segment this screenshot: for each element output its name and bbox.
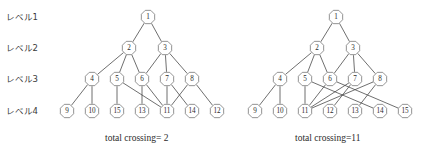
graph-edge [146, 85, 162, 106]
graph-node[interactable]: 12 [323, 104, 336, 117]
graph-node[interactable]: 13 [135, 104, 148, 117]
node-label: 9 [253, 107, 257, 115]
node-label: 13 [351, 107, 359, 115]
graph-edge [146, 54, 160, 73]
node-label: 3 [163, 44, 167, 52]
graph-node[interactable]: 10 [273, 104, 286, 117]
graph-edge [259, 85, 275, 106]
node-label: 15 [113, 107, 121, 115]
graph-edge [132, 55, 139, 73]
graph-edge [120, 55, 127, 73]
graph-node[interactable]: 4 [85, 72, 98, 85]
graph-node[interactable]: 11 [160, 104, 173, 117]
graph-node[interactable]: 8 [373, 72, 386, 85]
graph-node[interactable]: 7 [160, 72, 173, 85]
graph-node[interactable]: 9 [248, 104, 261, 117]
graph-node[interactable]: 12 [210, 104, 223, 117]
left-graph-caption: total crossing= 2 [105, 133, 168, 143]
node-label: 6 [328, 75, 332, 83]
node-label: 14 [188, 107, 196, 115]
graph-node[interactable]: 15 [110, 104, 123, 117]
node-label: 8 [378, 75, 382, 83]
level-label-3: レベル3 [6, 72, 38, 84]
node-label: 13 [138, 107, 146, 115]
figure-canvas: レベル1レベル2レベル3レベル4 123456789101513111412to… [0, 0, 437, 154]
node-label: 6 [140, 75, 144, 83]
graph-node[interactable]: 3 [346, 41, 359, 54]
node-label: 10 [88, 107, 96, 115]
graph-edge [98, 53, 124, 75]
graph-node[interactable]: 9 [60, 104, 73, 117]
graph-edge [321, 23, 332, 42]
node-label: 1 [334, 13, 338, 21]
graph-edge [196, 85, 212, 106]
node-label: 12 [213, 107, 221, 115]
graph-edge [353, 55, 354, 72]
node-label: 15 [401, 107, 409, 115]
node-label: 3 [351, 44, 355, 52]
graph-edge [133, 23, 144, 42]
edge-layer [71, 23, 212, 107]
level-label-column: レベル1レベル2レベル3レベル4 [0, 0, 60, 130]
graph-edge [334, 54, 348, 73]
graph-edge [320, 55, 327, 73]
graph-node[interactable]: 8 [185, 72, 198, 85]
graph-node[interactable]: 13 [348, 104, 361, 117]
graph-node[interactable]: 2 [122, 41, 135, 54]
graph-node[interactable]: 10 [85, 104, 98, 117]
graph-edge [358, 53, 376, 73]
node-label: 12 [326, 107, 334, 115]
node-label: 7 [165, 75, 169, 83]
graph-edge [359, 85, 375, 106]
node-label: 4 [90, 75, 94, 83]
level-label-2: レベル2 [6, 41, 38, 53]
node-label: 4 [278, 75, 282, 83]
node-label: 2 [315, 44, 319, 52]
graph-node[interactable]: 7 [348, 72, 361, 85]
graph-node[interactable]: 2 [310, 41, 323, 54]
graph-node[interactable]: 14 [373, 104, 386, 117]
graph-node[interactable]: 4 [273, 72, 286, 85]
graph-edge [286, 53, 312, 75]
node-label: 8 [190, 75, 194, 83]
graph-node[interactable]: 5 [110, 72, 123, 85]
node-label: 2 [127, 44, 131, 52]
graph-node[interactable]: 11 [298, 104, 311, 117]
node-label: 5 [115, 75, 119, 83]
edge-layer [259, 23, 398, 108]
graph-edge [309, 85, 325, 106]
level-label-1: レベル1 [6, 10, 38, 22]
level-label-4: レベル4 [6, 104, 38, 116]
graph-node[interactable]: 1 [329, 10, 342, 23]
graph-node[interactable]: 1 [141, 10, 154, 23]
node-label: 1 [146, 13, 150, 21]
graph-node[interactable]: 14 [185, 104, 198, 117]
node-label: 14 [376, 107, 384, 115]
node-label: 10 [276, 107, 284, 115]
right-graph: 123456789101112131415 [243, 0, 428, 130]
left-graph: 123456789101513111412 [55, 0, 240, 130]
graph-edge [339, 23, 349, 41]
node-label: 11 [302, 107, 309, 115]
graph-edge [71, 85, 87, 106]
graph-node[interactable]: 6 [135, 72, 148, 85]
graph-edge [151, 23, 161, 41]
graph-edge [165, 55, 166, 72]
right-graph-caption: total crossing=11 [295, 133, 360, 143]
node-label: 11 [164, 107, 171, 115]
graph-node[interactable]: 15 [398, 104, 411, 117]
graph-edge [308, 55, 315, 73]
node-label: 9 [65, 107, 69, 115]
graph-node[interactable]: 3 [158, 41, 171, 54]
node-label: 5 [303, 75, 307, 83]
graph-node[interactable]: 5 [298, 72, 311, 85]
node-label: 7 [353, 75, 357, 83]
graph-node[interactable]: 6 [323, 72, 336, 85]
graph-edge [170, 53, 188, 73]
